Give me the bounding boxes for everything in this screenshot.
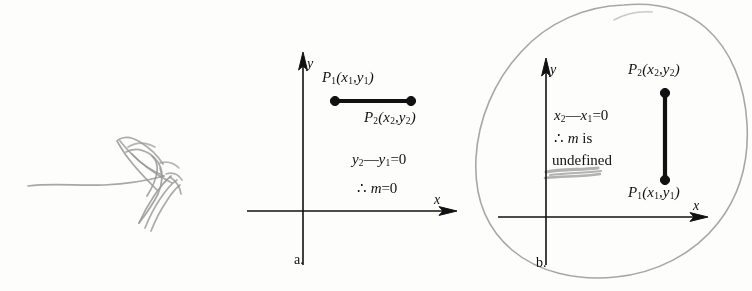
panel-a-y-axis-label: y <box>307 56 313 72</box>
panel-b-y-axis-label: y <box>550 62 556 78</box>
panel-a-x-axis-arrowhead <box>439 207 457 216</box>
panel-a-point1-label: P1(x1,y1) <box>322 70 374 87</box>
panel-b-statement-2: ∴ m is <box>554 131 592 147</box>
panel-b-statement-1: x2—x1=0 <box>554 108 608 125</box>
panel-b-point2-label: P2(x2,y2) <box>628 62 680 79</box>
pencil-annotation-layer <box>0 0 752 291</box>
panel-a-x-axis-label: x <box>434 192 440 208</box>
pencil-strikeout-mark <box>545 168 601 178</box>
panel-b-x-axis-label: x <box>693 198 699 214</box>
panel-b-point1-label: P1(x1,y1) <box>628 185 680 202</box>
panel-b-caption-label: b. <box>536 255 547 271</box>
pencil-scribble-arrow <box>28 138 182 231</box>
cut-off-header-text <box>236 0 536 3</box>
panel-a-point-p2 <box>406 96 415 105</box>
panel-a-statement-2: ∴ m=0 <box>357 181 397 197</box>
panel-b-statement-3: undefined <box>552 153 612 169</box>
panel-a-point2-label: P2(x2,y2) <box>364 110 416 127</box>
panel-a-statement-1: y2—y1=0 <box>352 152 406 169</box>
panel-b-point-p2 <box>660 88 669 97</box>
figure-page: y x P1(x1,y1) P2(x2,y2) y2—y1=0 ∴ m=0 a.… <box>0 0 752 291</box>
panel-a-caption-label: a. <box>294 252 304 268</box>
panel-a-ink-layer <box>0 0 752 291</box>
pencil-circle-around-panel-b <box>476 4 747 278</box>
panel-a-point-p1 <box>330 96 339 105</box>
panel-b-ink-layer <box>0 0 752 291</box>
